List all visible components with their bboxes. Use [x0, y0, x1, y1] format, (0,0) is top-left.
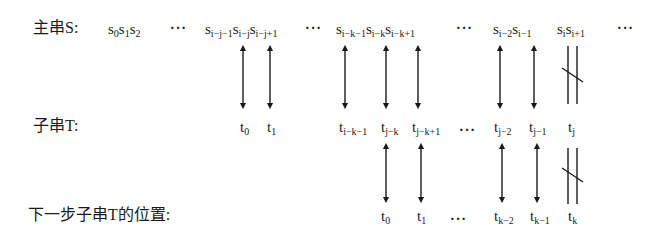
- not-equal-icon: [562, 148, 583, 204]
- not-equal-icon: [562, 46, 583, 104]
- relation-arrows: [0, 0, 672, 241]
